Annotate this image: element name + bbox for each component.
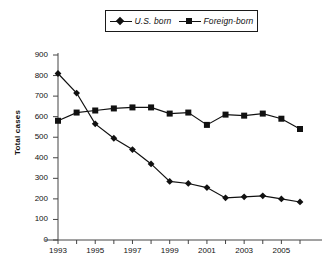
data-point-foreign-born (92, 108, 98, 114)
data-point-us-born (259, 192, 266, 199)
data-point-foreign-born (111, 105, 117, 111)
data-point-foreign-born (297, 126, 303, 132)
data-point-foreign-born (148, 104, 154, 110)
data-point-us-born (185, 180, 192, 187)
data-point-foreign-born (278, 116, 284, 122)
data-point-us-born (222, 194, 229, 201)
data-point-us-born (278, 195, 285, 202)
data-point-us-born (241, 193, 248, 200)
plot-area (0, 0, 329, 270)
data-point-foreign-born (55, 118, 61, 124)
data-point-foreign-born (241, 113, 247, 119)
data-point-foreign-born (204, 122, 210, 128)
data-point-foreign-born (74, 110, 80, 116)
data-point-foreign-born (260, 111, 266, 117)
data-point-foreign-born (223, 112, 229, 118)
data-point-foreign-born (129, 104, 135, 110)
chart-screenshot: U.S. born Foreign-born Total cases 90080… (0, 0, 329, 270)
series-line-us-born (58, 74, 300, 203)
data-point-us-born (297, 199, 304, 206)
data-point-us-born (204, 184, 211, 191)
data-point-foreign-born (185, 110, 191, 116)
data-point-foreign-born (167, 111, 173, 117)
